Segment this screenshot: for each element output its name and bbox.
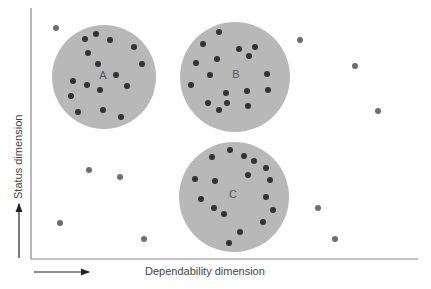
outlier-point (352, 63, 358, 69)
member-point (70, 78, 76, 84)
outlier-point (297, 37, 303, 43)
member-point (245, 172, 251, 178)
member-point (207, 72, 213, 78)
outlier-point (53, 25, 59, 31)
member-point (198, 196, 204, 202)
cluster-label: C (229, 188, 237, 200)
member-point (139, 61, 145, 67)
x-axis-label: Dependability dimension (145, 265, 265, 277)
cluster-label: B (232, 68, 239, 80)
member-point (224, 100, 230, 106)
member-point (193, 60, 199, 66)
member-point (236, 46, 242, 52)
member-point (118, 114, 124, 120)
member-point (246, 53, 252, 59)
member-point (270, 207, 276, 213)
member-point (84, 82, 90, 88)
member-point (124, 83, 130, 89)
member-point (209, 154, 215, 160)
member-point (211, 205, 217, 211)
member-point (75, 109, 81, 115)
member-point (221, 211, 227, 217)
member-point (192, 176, 198, 182)
member-point (113, 72, 119, 78)
member-point (223, 90, 229, 96)
member-point (263, 194, 269, 200)
member-point (93, 31, 99, 37)
outlier-point (141, 236, 147, 242)
y-axis-label: Status dimension (12, 119, 24, 199)
outlier-point (315, 205, 321, 211)
outlier-point (57, 220, 63, 226)
member-point (188, 82, 194, 88)
member-point (237, 229, 243, 235)
member-point (245, 103, 251, 109)
member-point (68, 93, 74, 99)
member-point (216, 107, 222, 113)
member-point (95, 61, 101, 67)
cluster-c: C (179, 142, 289, 252)
member-point (244, 88, 250, 94)
member-point (205, 100, 211, 106)
member-point (263, 165, 269, 171)
member-point (100, 107, 106, 113)
member-point (252, 44, 258, 50)
outlier-point (375, 108, 381, 114)
member-point (226, 240, 232, 246)
clusters: ABC (52, 22, 290, 252)
member-point (97, 87, 103, 93)
member-point (265, 87, 271, 93)
member-point (214, 56, 220, 62)
member-point (212, 178, 218, 184)
member-point (107, 37, 113, 43)
outlier-point (332, 236, 338, 242)
member-point (85, 50, 91, 56)
outlier-point (86, 167, 92, 173)
cluster-b: B (180, 22, 290, 132)
cluster-diagram: ABC (0, 0, 431, 289)
member-point (267, 177, 273, 183)
member-point (131, 44, 137, 50)
member-point (227, 147, 233, 153)
member-point (264, 71, 270, 77)
member-point (251, 158, 257, 164)
cluster-label: A (99, 69, 107, 81)
member-point (216, 29, 222, 35)
member-point (200, 41, 206, 47)
outlier-point (117, 174, 123, 180)
member-point (260, 219, 266, 225)
member-point (82, 36, 88, 42)
member-point (241, 153, 247, 159)
cluster-a: A (52, 25, 156, 129)
